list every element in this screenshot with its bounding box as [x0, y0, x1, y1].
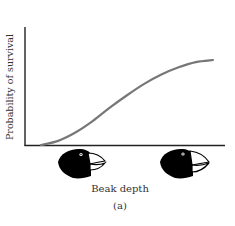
large-beak-finch-icon: [160, 149, 209, 178]
small-beak-finch-icon: [58, 149, 105, 178]
y-axis-label: Probability of survival: [3, 32, 17, 142]
x-axis-label: Beak depth: [60, 183, 180, 194]
figure-caption: (a): [90, 200, 150, 211]
figure: Probability of survival Beak depth (a): [0, 0, 235, 226]
survival-curve: [41, 60, 213, 145]
